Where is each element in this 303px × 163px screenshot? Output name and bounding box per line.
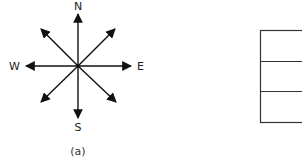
- label-south: S: [75, 121, 82, 134]
- compass-rose: N S E W (a): [9, 0, 144, 158]
- arrow-southeast: [78, 66, 116, 102]
- grid-table: [261, 31, 303, 123]
- diagram-canvas: N S E W (a): [0, 0, 302, 163]
- compass-center: [76, 64, 80, 68]
- label-north: N: [74, 0, 82, 13]
- arrow-southwest: [41, 66, 78, 102]
- grid-outline: [261, 31, 303, 123]
- arrow-northwest: [41, 29, 78, 66]
- arrow-northeast: [78, 29, 115, 66]
- label-east: E: [137, 60, 144, 73]
- label-west: W: [9, 60, 20, 73]
- caption-a: (a): [70, 145, 85, 158]
